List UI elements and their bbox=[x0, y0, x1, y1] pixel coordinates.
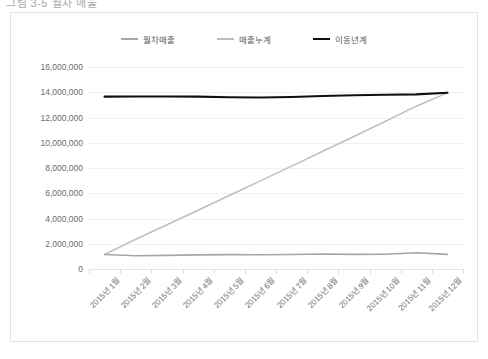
x-axis-tick-label: 2015년 4월 bbox=[180, 275, 215, 310]
x-axis-tickmark bbox=[307, 269, 308, 274]
x-axis-tickmark bbox=[463, 269, 464, 274]
plot-area bbox=[89, 67, 463, 269]
plot-wrapper: 16,000,00014,000,00012,000,00010,000,000… bbox=[11, 13, 479, 343]
y-axis-tick-label: 8,000,000 bbox=[15, 163, 83, 173]
x-axis-tick-label: 2015년 5월 bbox=[211, 275, 246, 310]
y-axis-tick-label: 10,000,000 bbox=[15, 138, 83, 148]
x-axis-tick-label: 2015년 6월 bbox=[242, 275, 277, 310]
x-axis-tickmark bbox=[151, 269, 152, 274]
x-axis-tickmark bbox=[276, 269, 277, 274]
chart-series-svg bbox=[89, 67, 463, 269]
x-axis-tickmark bbox=[370, 269, 371, 274]
series-line-1 bbox=[105, 93, 448, 255]
y-axis-tick-label: 4,000,000 bbox=[15, 214, 83, 224]
y-axis-labels: 16,000,00014,000,00012,000,00010,000,000… bbox=[15, 13, 83, 343]
x-axis-tickmark bbox=[214, 269, 215, 274]
x-axis-tick-label: 2015년 2월 bbox=[118, 275, 153, 310]
x-axis-tickmark bbox=[338, 269, 339, 274]
x-axis-tickmark bbox=[245, 269, 246, 274]
x-axis-tickmark bbox=[120, 269, 121, 274]
document-title: 그림 3-5 월차 매출 bbox=[6, 0, 97, 10]
series-line-2 bbox=[105, 93, 448, 98]
y-axis-tick-label: 2,000,000 bbox=[15, 239, 83, 249]
x-axis-tickmark bbox=[183, 269, 184, 274]
x-axis-tick-label: 2015년 7월 bbox=[273, 275, 308, 310]
x-axis-tickmark bbox=[432, 269, 433, 274]
x-axis-tick-label: 2015년 3월 bbox=[149, 275, 184, 310]
x-axis-tick-label: 2015년 12월 bbox=[426, 275, 464, 313]
y-axis-tick-label: 12,000,000 bbox=[15, 113, 83, 123]
y-axis-tick-label: 0 bbox=[15, 264, 83, 274]
series-line-0 bbox=[105, 253, 448, 256]
x-axis-labels: 2015년 1월2015년 2월2015년 3월2015년 4월2015년 5월… bbox=[89, 275, 463, 345]
x-axis-tick-label: 2015년 8월 bbox=[305, 275, 340, 310]
chart-container: 월차매출 매출누계 이동년계 16,000,00014,000,00012,00… bbox=[10, 12, 478, 342]
x-axis-tick-label: 2015년 1월 bbox=[86, 275, 121, 310]
y-axis-tick-label: 14,000,000 bbox=[15, 87, 83, 97]
y-axis-tick-label: 6,000,000 bbox=[15, 188, 83, 198]
x-axis-tickmark bbox=[401, 269, 402, 274]
y-axis-tick-label: 16,000,000 bbox=[15, 62, 83, 72]
x-axis-tickmark bbox=[89, 269, 90, 274]
